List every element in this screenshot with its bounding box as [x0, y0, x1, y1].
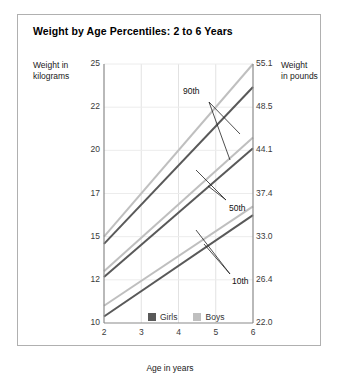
annotation-leader-line — [204, 244, 230, 274]
plot-area — [104, 64, 253, 323]
y-axis-right-tick-label: 48.5 — [256, 101, 286, 111]
y-axis-left-tick-label: 25 — [74, 58, 100, 68]
y-axis-right-tick-label: 44.1 — [256, 144, 286, 154]
legend-swatch-girls-icon — [148, 313, 156, 321]
y-axis-right-tick-label: 55.1 — [256, 58, 286, 68]
legend-swatch-boys-icon — [193, 313, 201, 321]
legend-item-girls: Girls — [148, 312, 177, 322]
x-axis-title: Age in years — [18, 363, 322, 373]
x-axis-tick-label: 3 — [132, 327, 150, 337]
gridlines — [104, 64, 253, 323]
legend-label-girls: Girls — [160, 312, 177, 322]
y-axis-left-title-line2: kilograms — [33, 71, 91, 82]
y-axis-right-title-line2: in pounds — [281, 71, 336, 82]
y-axis-right-title-line1: Weight — [281, 60, 336, 71]
y-axis-right-title: Weight in pounds — [281, 60, 336, 82]
y-axis-left-tick-label: 20 — [74, 144, 100, 154]
chart-card: Weight by Age Percentiles: 2 to 6 Years … — [17, 14, 321, 346]
annotation-label-10th: 10th — [232, 276, 249, 286]
y-axis-left-tick-label: 10 — [74, 317, 100, 327]
x-axis-tick-label: 4 — [170, 327, 188, 337]
page-title: Weight by Age Percentiles: 2 to 6 Years — [33, 25, 233, 37]
annotation-label-90th: 90th — [183, 86, 200, 96]
y-axis-left-tick-label: 12 — [74, 274, 100, 284]
y-axis-right-tick-label: 37.4 — [256, 188, 286, 198]
x-axis-tick-label: 5 — [207, 327, 225, 337]
annotation-label-50th: 50th — [229, 203, 246, 213]
legend-item-boys: Boys — [193, 312, 224, 322]
y-axis-right-tick-label: 26.4 — [256, 274, 286, 284]
y-axis-left-tick-label: 15 — [74, 231, 100, 241]
x-axis-tick-label: 6 — [244, 327, 262, 337]
y-axis-right-tick-label: 33.0 — [256, 231, 286, 241]
x-axis-tick-label: 2 — [95, 327, 113, 337]
legend-label-boys: Boys — [205, 312, 224, 322]
y-axis-left-tick-label: 17 — [74, 188, 100, 198]
legend: Girls Boys — [148, 312, 224, 322]
y-axis-left-tick-label: 22 — [74, 101, 100, 111]
y-axis-right-tick-label: 22.0 — [256, 317, 286, 327]
chart-canvas — [104, 64, 253, 323]
